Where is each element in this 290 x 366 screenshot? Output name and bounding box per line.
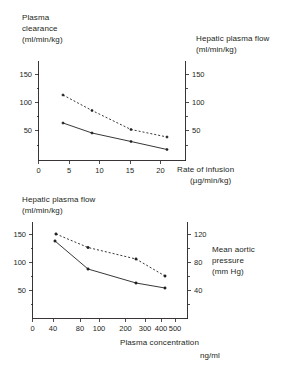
bottom-series-solid-marker <box>87 268 89 270</box>
top-chart-svg <box>0 0 290 190</box>
bottom-x-ticklabel-100: 100 <box>89 325 109 333</box>
bottom-x-ticklabel-80: 80 <box>70 325 90 333</box>
top-left-ticklabel-50: 50 <box>6 127 32 135</box>
figure-container: Plasma clearance (ml/min/kg) Hepatic pla… <box>0 0 290 366</box>
bottom-x-ticklabel-0: 0 <box>23 325 43 333</box>
bottom-right-ticklabel-40: 40 <box>194 287 220 295</box>
bottom-x-axis-title: Plasma concentration <box>120 338 199 349</box>
bottom-series-dashed-line <box>56 234 165 276</box>
top-x-axis-title: Rate of infusion <box>177 165 234 176</box>
top-x-ticklabel-20: 20 <box>151 167 171 175</box>
top-series-dashed-line <box>63 95 167 137</box>
bottom-right-ticklabel-80: 80 <box>194 259 220 267</box>
bottom-x-ticklabel-40: 40 <box>43 325 63 333</box>
top-right-ticklabel-50: 50 <box>192 127 218 135</box>
bottom-x-ticklabel-500: 500 <box>165 325 185 333</box>
bottom-series-dashed-marker <box>164 275 166 277</box>
top-x-ticklabel-5: 5 <box>59 167 79 175</box>
bottom-series-dashed-marker <box>87 246 89 248</box>
bottom-series-solid-line <box>55 241 165 288</box>
bottom-series-solid-marker <box>164 287 166 289</box>
top-series-dashed-marker <box>130 128 132 130</box>
top-x-ticklabel-0: 0 <box>29 167 49 175</box>
top-series-solid-marker <box>62 122 64 124</box>
bottom-left-ticklabel-100: 100 <box>0 259 26 267</box>
bottom-x-ticklabel-200: 200 <box>116 325 136 333</box>
top-series-solid-marker <box>91 132 93 134</box>
top-series-dashed-marker <box>91 109 93 111</box>
top-right-ticklabel-150: 150 <box>192 71 218 79</box>
chart-panel-top: Plasma clearance (ml/min/kg) Hepatic pla… <box>0 0 290 190</box>
top-left-ticklabel-100: 100 <box>6 99 32 107</box>
bottom-series-solid-marker <box>135 282 137 284</box>
top-x-ticklabel-10: 10 <box>90 167 110 175</box>
chart-panel-bottom: Hepatic plasma flow (ml/min/kg) Mean aor… <box>0 188 290 366</box>
bottom-right-ticklabel-120: 120 <box>194 231 220 239</box>
top-series-dashed-marker <box>62 94 64 96</box>
top-left-ticklabel-150: 150 <box>6 71 32 79</box>
bottom-series-dashed-marker <box>55 233 57 235</box>
top-x-ticklabel-15: 15 <box>120 167 140 175</box>
top-series-solid-marker <box>130 140 132 142</box>
bottom-x-axis-units: ng/ml <box>140 351 220 362</box>
bottom-left-ticklabel-150: 150 <box>0 231 26 239</box>
top-series-solid-line <box>63 123 167 150</box>
bottom-series-dashed-marker <box>135 258 137 260</box>
top-series-dashed-marker <box>166 136 168 138</box>
bottom-left-ticklabel-50: 50 <box>0 287 26 295</box>
top-x-axis-units: (µg/min/kg) <box>190 176 231 187</box>
top-series-solid-marker <box>166 148 168 150</box>
top-right-ticklabel-100: 100 <box>192 99 218 107</box>
bottom-series-solid-marker <box>54 240 56 242</box>
